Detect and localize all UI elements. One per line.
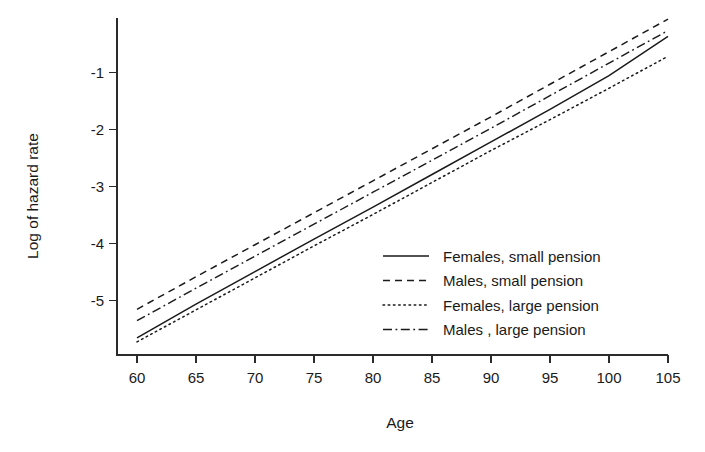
x-tick-label: 80 (365, 369, 382, 386)
x-tick-label: 70 (247, 369, 264, 386)
legend-item-label: Females, large pension (443, 297, 599, 314)
x-axis-tick-labels: 6065707580859095100105 (129, 369, 681, 386)
legend-item-label: Males, small pension (443, 272, 583, 289)
legend-item-label: Males , large pension (443, 321, 586, 338)
chart-legend: Females, small pensionMales, small pensi… (383, 248, 601, 339)
x-tick-label: 75 (306, 369, 323, 386)
chart-canvas: -1-2-3-4-5 6065707580859095100105 Female… (0, 0, 705, 452)
series-line (137, 31, 668, 321)
x-axis-title: Age (386, 414, 414, 431)
y-tick-label: -3 (91, 178, 104, 195)
series-line (137, 36, 668, 338)
chart-series-group (137, 19, 668, 342)
x-tick-label: 90 (483, 369, 500, 386)
y-tick-label: -5 (91, 292, 104, 309)
series-line (137, 19, 668, 309)
y-tick-label: -2 (91, 121, 104, 138)
legend-item-label: Females, small pension (443, 248, 601, 265)
x-tick-label: 95 (542, 369, 559, 386)
x-tick-label: 105 (655, 369, 680, 386)
y-tick-label: -1 (91, 64, 104, 81)
x-tick-label: 60 (129, 369, 146, 386)
x-tick-label: 100 (596, 369, 621, 386)
y-tick-label: -4 (91, 235, 104, 252)
x-tick-label: 85 (424, 369, 441, 386)
y-axis-tick-labels: -1-2-3-4-5 (91, 64, 104, 309)
x-tick-label: 65 (188, 369, 205, 386)
hazard-rate-chart: -1-2-3-4-5 6065707580859095100105 Female… (0, 0, 705, 452)
y-axis-title: Log of hazard rate (24, 133, 41, 259)
